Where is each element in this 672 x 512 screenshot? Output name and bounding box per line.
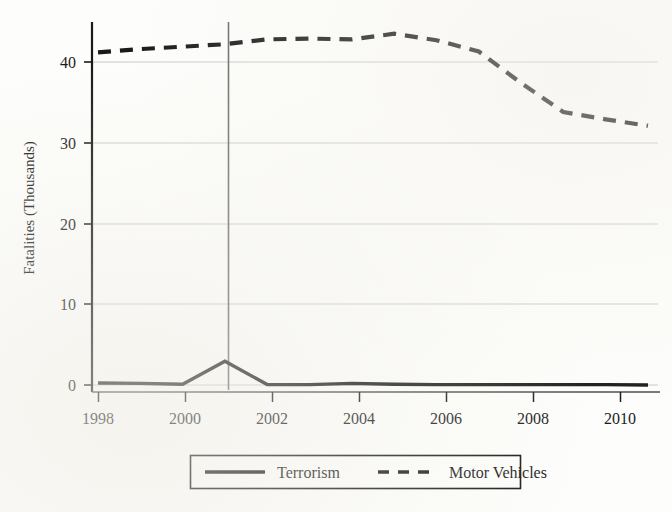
series-line-terrorism: [98, 361, 648, 385]
chart-legend: Terrorism Motor Vehicles: [191, 456, 547, 489]
y-tick-label-30: 30: [60, 135, 76, 152]
legend-label-terrorism: Terrorism: [277, 464, 340, 481]
x-tick-label-1998: 1998: [82, 410, 114, 427]
y-tick-label-10: 10: [60, 296, 76, 313]
legend-label-motor-vehicles: Motor Vehicles: [449, 464, 547, 481]
gridlines: [92, 62, 658, 385]
x-tick-label-2000: 2000: [169, 410, 201, 427]
chart-figure: 0 10 20 30 40 1998 2000 2002 2004 2006 2…: [0, 0, 672, 512]
x-tick-label-2006: 2006: [430, 410, 462, 427]
x-tick-label-2002: 2002: [256, 410, 288, 427]
x-tick-label-2008: 2008: [517, 410, 549, 427]
series-line-motor-vehicles: [98, 34, 648, 126]
y-axis-ticks: [84, 62, 92, 385]
x-axis-tick-labels: 1998 2000 2002 2004 2006 2008 2010: [82, 410, 636, 427]
y-axis-title: Fatalities (Thousands): [21, 141, 38, 275]
y-tick-label-0: 0: [68, 377, 76, 394]
y-tick-label-40: 40: [60, 54, 76, 71]
x-tick-label-2010: 2010: [604, 410, 636, 427]
y-axis-tick-labels: 0 10 20 30 40: [60, 54, 76, 394]
x-axis-ticks: [99, 392, 621, 402]
chart-svg: 0 10 20 30 40 1998 2000 2002 2004 2006 2…: [0, 0, 672, 512]
y-tick-label-20: 20: [60, 216, 76, 233]
x-tick-label-2004: 2004: [343, 410, 375, 427]
